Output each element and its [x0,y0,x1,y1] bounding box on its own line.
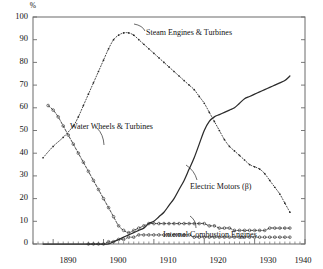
series-0 [42,32,291,213]
series-2 [43,76,290,244]
axis-ticks [33,17,305,244]
plot-frame [33,17,305,244]
chart-container: % 100 90 80 70 60 50 40 30 20 10 0 1890 … [0,0,323,269]
plot-area [0,0,323,269]
series-lines [42,32,291,245]
annotation-leaders [97,24,197,228]
series-1 [47,104,291,234]
